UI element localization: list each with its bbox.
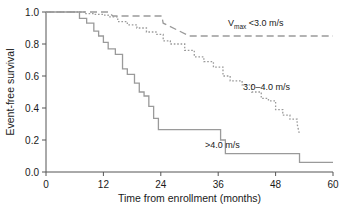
x-axis-tick-label: 36 [213, 179, 225, 190]
y-axis-tick-label: 0.2 [25, 135, 39, 146]
series-label-2: >4.0 m/s [205, 140, 240, 150]
y-axis-tick-label: 0.0 [25, 167, 39, 178]
x-axis-tick-label: 60 [327, 179, 339, 190]
y-axis-tick-label: 1.0 [25, 7, 39, 18]
y-axis-tick-label: 0.8 [25, 39, 39, 50]
y-axis-title: Event-free survival [4, 49, 16, 136]
x-axis-tick-label: 24 [155, 179, 167, 190]
x-axis-tick-label: 12 [98, 179, 110, 190]
y-axis-tick-label: 0.6 [25, 71, 39, 82]
x-axis-tick-label: 48 [270, 179, 282, 190]
survival-chart-figure: 0.00.20.40.60.81.001224364860Time from e… [0, 0, 341, 210]
x-axis-tick-label: 0 [43, 179, 49, 190]
series-line-0 [46, 12, 333, 36]
series-label-1: 3.0–4.0 m/s [243, 82, 291, 92]
series-label-0: Vmax <3.0 m/s [228, 18, 284, 30]
y-axis-tick-label: 0.4 [25, 103, 39, 114]
kaplan-meier-plot: 0.00.20.40.60.81.001224364860Time from e… [0, 0, 341, 210]
series-line-1 [46, 12, 300, 134]
x-axis-title: Time from enrollment (months) [118, 192, 261, 204]
